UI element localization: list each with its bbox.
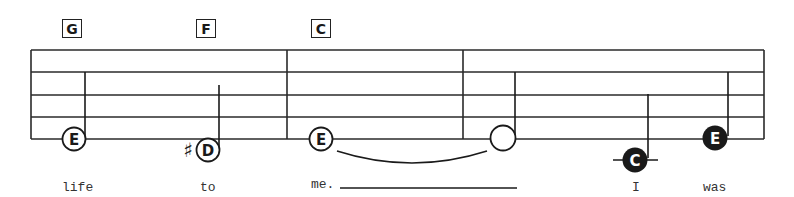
lyric-me: me. — [311, 178, 334, 191]
sharp-icon: ♯ — [183, 138, 193, 162]
note-letter: D — [202, 142, 214, 160]
lyric-to: to — [200, 181, 216, 194]
lyric-i: I — [632, 181, 640, 194]
note-tied-blank — [491, 72, 516, 151]
note-letter: E — [316, 131, 326, 149]
note-letter: E — [69, 131, 79, 149]
note-e-2: E — [310, 128, 333, 151]
notehead-open — [491, 126, 516, 151]
note-c: C — [613, 94, 658, 173]
note-letter: E — [710, 130, 720, 148]
staff-lines — [31, 50, 764, 139]
lyric-life: life — [62, 181, 93, 194]
lyric-was: was — [703, 181, 726, 194]
note-e-1: E — [63, 72, 86, 151]
note-letter: C — [629, 152, 640, 170]
music-staff: E D ♯ E C E — [0, 0, 794, 197]
note-d-sharp: D ♯ — [183, 85, 219, 162]
note-e-3: E — [703, 72, 729, 151]
tie-arc — [337, 151, 487, 163]
